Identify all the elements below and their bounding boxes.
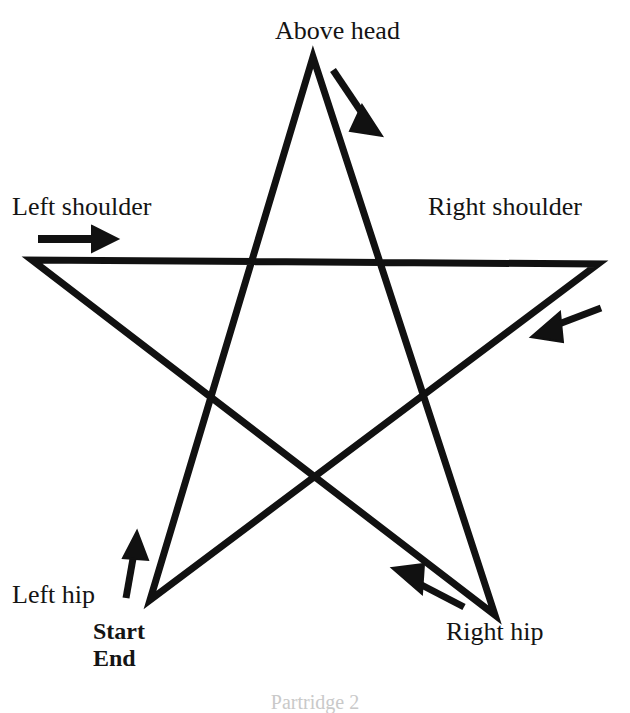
- arrow-left-shoulder-to-right-shoulder: [38, 226, 118, 252]
- label-left-hip: Left hip: [12, 582, 95, 608]
- label-start: Start: [93, 619, 145, 643]
- direction-arrow-group: [38, 70, 601, 607]
- label-left-shoulder: Left shoulder: [12, 194, 151, 220]
- arrow-left-hip-to-above-head: [123, 531, 148, 598]
- label-right-hip: Right hip: [446, 619, 544, 645]
- label-end: End: [93, 646, 136, 670]
- arrow-right-shoulder-to-left-hip: [531, 308, 601, 342]
- label-above-head: Above head: [275, 18, 400, 44]
- arrow-head-to-right-hip: [333, 70, 382, 136]
- label-caption: Partridge 2: [0, 692, 630, 712]
- star-path: [32, 57, 598, 615]
- label-right-shoulder: Right shoulder: [428, 194, 582, 220]
